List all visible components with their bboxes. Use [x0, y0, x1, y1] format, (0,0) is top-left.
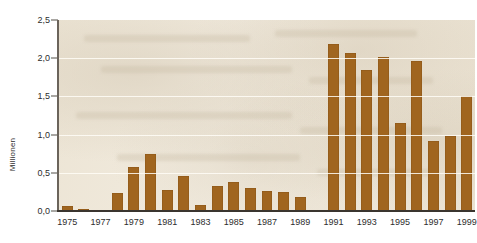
bar [361, 70, 372, 211]
y-axis-tick-label: 1,5 [37, 91, 50, 101]
x-axis-line [57, 210, 475, 212]
gridline [59, 135, 475, 136]
x-axis-tick-label: 1981 [157, 217, 177, 227]
x-axis-tick-label: 1997 [423, 217, 443, 227]
x-axis-tick-label: 1987 [257, 217, 277, 227]
bar [278, 192, 289, 211]
y-axis-tick-group: 0,00,51,01,52,02,5 [0, 0, 58, 243]
bar [428, 141, 439, 211]
plot-area [59, 20, 475, 211]
gridline [59, 96, 475, 97]
bar [461, 96, 472, 211]
x-axis-tick-label: 1991 [324, 217, 344, 227]
x-axis-tick-label: 1989 [290, 217, 310, 227]
bar [262, 191, 273, 211]
bar [328, 44, 339, 211]
x-axis-tick-label: 1979 [124, 217, 144, 227]
bar [112, 193, 123, 211]
x-axis-tick-label: 1995 [390, 217, 410, 227]
x-axis-tick-label: 1993 [357, 217, 377, 227]
x-axis-tick-label: 1975 [57, 217, 77, 227]
y-axis-tick-label: 0,0 [37, 206, 50, 216]
y-axis-tick-label: 1,0 [37, 130, 50, 140]
bar [212, 186, 223, 211]
y-axis-tick-label: 2,0 [37, 53, 50, 63]
bar [345, 53, 356, 211]
y-axis-tick-label: 2,5 [37, 15, 50, 25]
bar [178, 176, 189, 211]
y-axis-tick-label: 0,5 [37, 168, 50, 178]
bar [162, 190, 173, 211]
x-axis-tick-label: 1977 [91, 217, 111, 227]
gridline [59, 173, 475, 174]
bar [395, 123, 406, 211]
x-axis-tick-label: 1999 [457, 217, 477, 227]
bar [295, 197, 306, 211]
bar-series [59, 20, 475, 211]
x-axis-tick-label: 1983 [190, 217, 210, 227]
bar [411, 61, 422, 212]
x-axis-tick-group: 1975197719791981198319851987198919911993… [59, 213, 475, 241]
bar [145, 154, 156, 211]
x-axis-tick-label: 1985 [224, 217, 244, 227]
bar [228, 182, 239, 211]
gridline [59, 58, 475, 59]
bar [245, 188, 256, 211]
